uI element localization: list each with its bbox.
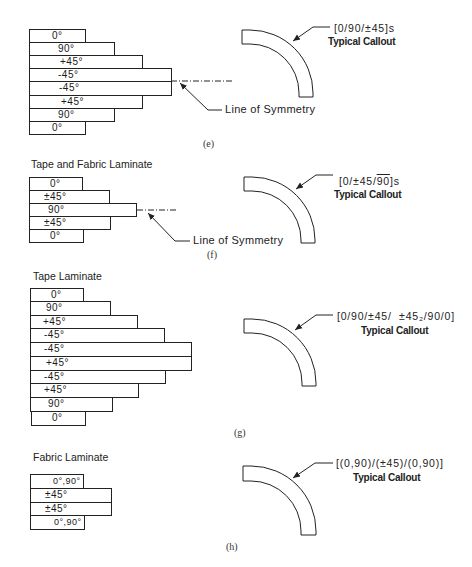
ply: 0° (30, 288, 84, 302)
symmetry-leader-e (180, 83, 222, 110)
ply-label: +45° (61, 96, 84, 108)
curved-part-g (244, 319, 316, 386)
ply: 0°,90° (30, 515, 85, 530)
ply-label: 90° (46, 302, 63, 314)
section-label: (g) (234, 427, 246, 438)
section-title: Tape and Fabric Laminate (31, 158, 152, 170)
ply: -45° (30, 370, 166, 384)
ply: 90° (29, 108, 115, 122)
callout-overlined: 90 (377, 175, 390, 187)
ply: 0° (31, 411, 86, 426)
ply: -45° (29, 68, 172, 82)
ply: -45° (29, 81, 172, 96)
ply-label: 0° (52, 122, 63, 134)
ply-label: -45° (44, 329, 64, 341)
ply: 0°,90° (30, 474, 84, 489)
ply-label: -45° (58, 69, 78, 81)
ply: 0° (29, 177, 83, 191)
callout-suffix: ]s (390, 175, 400, 187)
section-label: (f) (207, 249, 217, 260)
section-label: (e) (203, 138, 214, 149)
ply-label: +45° (46, 357, 69, 369)
section-label: (h) (226, 541, 238, 552)
ply: -45° (30, 342, 192, 357)
ply: ±45° (30, 502, 112, 516)
callout-caption: Typical Callout (353, 472, 420, 483)
callout-caption: Typical Callout (334, 189, 401, 200)
callout-leader-e (293, 27, 330, 41)
symmetry-leader-f (148, 213, 190, 241)
ply-label: 0° (50, 230, 61, 242)
ply-label: 0°,90° (54, 516, 82, 528)
ply: 90° (29, 42, 115, 56)
ply-label: -45° (44, 343, 64, 355)
ply: ±45° (29, 216, 111, 230)
callout-notation: [0/90/±45]s (334, 22, 395, 34)
ply: +45° (29, 55, 143, 69)
ply-label: ±45° (45, 503, 68, 515)
ply: 0° (29, 121, 86, 135)
ply: 0° (29, 229, 84, 243)
ply: -45° (30, 328, 165, 343)
symmetry-label: Line of Symmetry (225, 103, 315, 115)
ply-label: -45° (59, 82, 79, 94)
callout-prefix: [0/±45/ (339, 175, 377, 187)
ply: 0° (29, 29, 86, 43)
ply-label: 0° (51, 289, 62, 301)
callout-notation: [0/±45/90]s (339, 175, 400, 187)
callout-notation: [0/90/±45/ ±45₂/90/0] (337, 310, 455, 322)
callout-leader-g (295, 315, 333, 330)
ply-label: ±45° (44, 217, 67, 229)
section-title: Tape Laminate (33, 270, 102, 282)
ply: 90° (29, 203, 137, 217)
callout-caption: Typical Callout (361, 325, 428, 336)
ply-label: 90° (58, 109, 75, 121)
ply: ±45° (30, 488, 112, 503)
ply-label: 90° (48, 204, 65, 216)
ply-label: 0° (52, 30, 63, 42)
callout-notation: [(0,90)/(±45)/(0,90)] (336, 457, 444, 469)
ply-label: 90° (48, 398, 65, 410)
ply: 90° (30, 301, 111, 316)
ply-label: +45° (60, 56, 83, 68)
ply: +45° (30, 315, 138, 329)
ply: ±45° (29, 190, 110, 204)
curved-part-e (242, 30, 313, 97)
ply: +45° (30, 383, 139, 398)
callout-leader-h (293, 463, 333, 478)
symmetry-label: Line of Symmetry (193, 234, 283, 246)
callout-leader-f (296, 175, 333, 189)
ply-label: ±45° (44, 191, 67, 203)
callout-caption: Typical Callout (328, 36, 395, 47)
ply-label: 90° (58, 43, 75, 55)
ply: +45° (30, 356, 192, 371)
ply: +45° (29, 95, 143, 109)
ply: 90° (30, 397, 113, 412)
ply-label: ±45° (45, 489, 68, 501)
section-title: Fabric Laminate (33, 451, 108, 463)
ply-label: 0° (50, 178, 61, 190)
ply-label: +45° (43, 316, 66, 328)
ply-label: 0°,90° (53, 475, 81, 487)
ply-label: -45° (44, 371, 64, 383)
curved-part-h (243, 466, 316, 535)
ply-label: 0° (52, 412, 63, 424)
ply-label: +45° (44, 384, 67, 396)
